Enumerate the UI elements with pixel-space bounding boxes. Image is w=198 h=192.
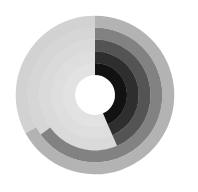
rings-group xyxy=(16,16,175,175)
radial-bar-chart xyxy=(0,0,198,192)
